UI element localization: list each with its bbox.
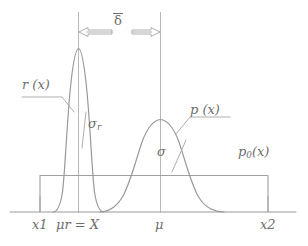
mu-r-equals-x: = X bbox=[71, 217, 99, 232]
delta-symbol: δ bbox=[114, 14, 122, 27]
x2-subscript: 2 bbox=[267, 217, 275, 232]
r-of-x-label: r (x) bbox=[22, 78, 50, 91]
axis-label-mu: μ bbox=[155, 218, 163, 231]
delta-label: δ bbox=[114, 14, 122, 27]
leader-line-r-of-x bbox=[22, 97, 74, 112]
axis-label-x1: x1 bbox=[32, 218, 48, 231]
sigma-label: σ bbox=[157, 145, 166, 158]
sigma-r-symbol: σ bbox=[88, 116, 97, 131]
curve-p-of-x bbox=[100, 120, 224, 213]
p-of-x-label: p (x) bbox=[190, 103, 220, 116]
x1-subscript: 1 bbox=[39, 217, 47, 232]
sigma-r-subscript: r bbox=[97, 122, 101, 132]
p0-rectangle bbox=[40, 176, 268, 213]
sigma-r-label: σr bbox=[88, 117, 101, 132]
p0-argument: (x) bbox=[252, 144, 269, 159]
leader-line-p-of-x bbox=[176, 117, 230, 134]
axis-label-x2: x2 bbox=[260, 218, 276, 231]
axis-label-mu-r: μr = X bbox=[56, 218, 99, 231]
probability-density-diagram bbox=[0, 0, 308, 246]
figure-canvas: δ r (x) σr p (x) σ p0(x) x1 μr = X μ x2 bbox=[0, 0, 308, 246]
p0-of-x-label: p0(x) bbox=[238, 145, 269, 160]
sigma-r-indicator-line bbox=[82, 112, 86, 148]
